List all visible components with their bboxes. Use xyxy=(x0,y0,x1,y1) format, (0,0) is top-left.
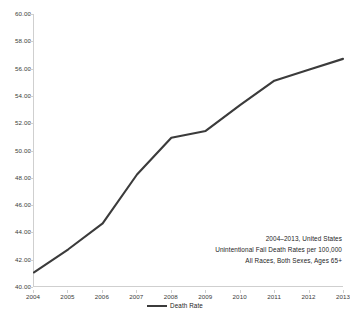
y-axis-tick-label: 56.00 xyxy=(0,65,31,71)
legend-swatch-death-rate xyxy=(147,305,167,307)
y-axis-tick-label: 44.00 xyxy=(0,229,31,235)
y-axis-tick-label: 48.00 xyxy=(0,175,31,181)
chart-legend: Death Rate xyxy=(0,303,350,309)
x-axis-tick-label: 2006 xyxy=(95,294,109,300)
x-axis-tick-label: 2004 xyxy=(26,294,40,300)
x-axis-tick-label: 2008 xyxy=(164,294,178,300)
line-chart: 60.0058.0056.0054.0052.0050.0048.0046.00… xyxy=(0,0,350,320)
y-axis-tick-label: 46.00 xyxy=(0,202,31,208)
y-axis-tick-label: 58.00 xyxy=(0,38,31,44)
x-axis-tick-label: 2013 xyxy=(336,294,350,300)
y-axis-tick-label: 54.00 xyxy=(0,93,31,99)
y-axis-tick-label: 42.00 xyxy=(0,257,31,263)
y-axis-tick-label: 52.00 xyxy=(0,120,31,126)
y-axis-tick-label: 40.00 xyxy=(0,284,31,290)
x-axis-tick-label: 2012 xyxy=(301,294,315,300)
y-axis-tick xyxy=(29,287,33,288)
y-axis-tick-label: 50.00 xyxy=(0,147,31,153)
x-axis-tick-label: 2010 xyxy=(233,294,247,300)
x-axis: 2004200520062007200820092010201120122013 xyxy=(33,290,343,302)
x-axis-tick-label: 2005 xyxy=(60,294,74,300)
legend-label-death-rate: Death Rate xyxy=(170,303,203,309)
y-axis-tick-label: 60.00 xyxy=(0,11,31,17)
x-axis-tick-label: 2009 xyxy=(198,294,212,300)
annotation-line-3: All Races, Both Sexes, Ages 65+ xyxy=(215,255,342,266)
annotation-line-1: 2004–2013, United States xyxy=(215,233,342,244)
chart-annotation: 2004–2013, United States Unintentional F… xyxy=(215,233,342,266)
y-axis: 60.0058.0056.0054.0052.0050.0048.0046.00… xyxy=(0,0,31,301)
annotation-line-2: Unintentional Fall Death Rates per 100,0… xyxy=(215,244,342,255)
x-axis-tick-label: 2011 xyxy=(267,294,281,300)
x-axis-tick-label: 2007 xyxy=(129,294,143,300)
